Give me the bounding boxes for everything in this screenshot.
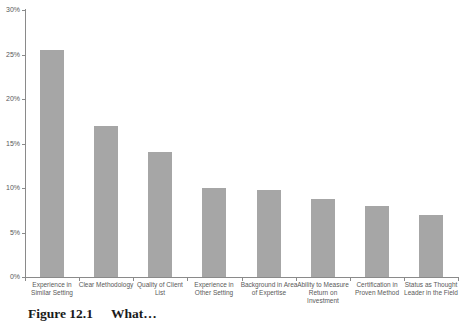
y-axis-tick xyxy=(22,99,25,100)
x-axis-label: Quality of ClientList xyxy=(129,281,191,297)
y-axis-tick-label: 15% xyxy=(0,140,20,148)
bar xyxy=(94,126,118,277)
y-axis-tick-label: 0% xyxy=(0,273,20,281)
x-axis-label: Ability to MeasureReturn onInvestment xyxy=(292,281,354,305)
y-axis-tick xyxy=(22,233,25,234)
bar xyxy=(148,152,172,277)
bar xyxy=(202,188,226,277)
y-axis-tick-label: 10% xyxy=(0,184,20,192)
y-axis-tick-label: 25% xyxy=(0,51,20,59)
bar xyxy=(365,206,389,277)
x-axis-label: Experience inOther Setting xyxy=(183,281,245,297)
figure-caption-label: Figure 12.1 xyxy=(28,306,93,321)
x-axis-label: Certification inProven Method xyxy=(346,281,408,297)
bar xyxy=(257,190,281,277)
y-axis-tick-label: 5% xyxy=(0,229,20,237)
y-axis-tick xyxy=(22,144,25,145)
y-axis-tick xyxy=(22,188,25,189)
figure-caption: Figure 12.1What… xyxy=(28,306,157,322)
x-axis-label: Background in Areaof Expertise xyxy=(238,281,300,297)
bar xyxy=(40,50,64,277)
figure-caption-title: What… xyxy=(111,306,157,321)
y-axis-tick-label: 20% xyxy=(0,95,20,103)
y-axis-tick-label: 30% xyxy=(0,6,20,14)
x-axis-label: Status as ThoughtLeader in the Field xyxy=(400,281,462,297)
x-axis-label: Clear Methodology xyxy=(75,281,137,289)
bar xyxy=(419,215,443,277)
bar xyxy=(311,199,335,277)
y-axis-tick xyxy=(22,10,25,11)
y-axis xyxy=(25,9,26,278)
x-axis-label: Experience inSimilar Setting xyxy=(21,281,83,297)
y-axis-tick xyxy=(22,55,25,56)
